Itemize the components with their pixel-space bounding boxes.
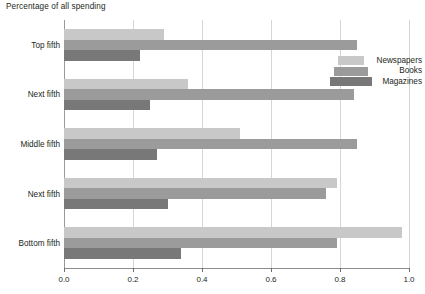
bar-books-bottom-fifth-4 — [64, 238, 337, 249]
x-tick-label-0.4: 0.4 — [196, 275, 207, 284]
bar-magazines-next-fifth-1 — [64, 100, 150, 111]
x-tick-label-1.0: 1.0 — [403, 275, 414, 284]
y-axis-label-1: Next fifth — [2, 90, 60, 99]
y-axis-label-2: Middle fifth — [2, 140, 60, 149]
x-tick-mark-0.2 — [133, 268, 134, 272]
y-axis-label-3: Next fifth — [2, 189, 60, 198]
legend-swatch-books — [334, 67, 368, 76]
bar-newspapers-next-fifth-3 — [64, 178, 337, 189]
bar-magazines-middle-fifth-2 — [64, 149, 157, 160]
bar-books-next-fifth-1 — [64, 89, 354, 100]
x-tick-mark-1.0 — [409, 268, 410, 272]
y-axis-label-0: Top fifth — [2, 40, 60, 49]
legend-label-books: Books — [399, 66, 422, 75]
legend-swatch-magazines — [330, 77, 372, 86]
bar-magazines-top-fifth-0 — [64, 50, 140, 61]
x-tick-mark-0.8 — [340, 268, 341, 272]
bar-books-next-fifth-3 — [64, 188, 326, 199]
x-tick-mark-0.4 — [202, 268, 203, 272]
chart-title: Percentage of all spending — [6, 2, 106, 11]
chart-legend: NewspapersBooksMagazines — [330, 56, 422, 88]
legend-label-magazines: Magazines — [382, 77, 422, 86]
x-axis-line — [64, 268, 410, 269]
x-tick-label-0.0: 0.0 — [58, 275, 69, 284]
bar-newspapers-bottom-fifth-4 — [64, 227, 402, 238]
bar-newspapers-next-fifth-1 — [64, 79, 188, 90]
x-tick-mark-0.0 — [64, 268, 65, 272]
x-tick-label-0.8: 0.8 — [334, 275, 345, 284]
bar-books-top-fifth-0 — [64, 40, 357, 51]
bar-magazines-bottom-fifth-4 — [64, 248, 181, 259]
bar-newspapers-top-fifth-0 — [64, 29, 164, 40]
spending-bar-chart: Percentage of all spending Top fifthNext… — [0, 0, 425, 294]
legend-swatch-newspapers — [338, 56, 364, 65]
bar-newspapers-middle-fifth-2 — [64, 128, 240, 139]
x-tick-mark-0.6 — [271, 268, 272, 272]
y-axis-label-4: Bottom fifth — [2, 239, 60, 248]
legend-label-newspapers: Newspapers — [376, 56, 422, 65]
x-tick-label-0.2: 0.2 — [127, 275, 138, 284]
x-tick-label-0.6: 0.6 — [265, 275, 276, 284]
bar-books-middle-fifth-2 — [64, 139, 357, 150]
bar-magazines-next-fifth-3 — [64, 199, 168, 210]
y-axis-category-labels: Top fifthNext fifthMiddle fifthNext fift… — [0, 20, 60, 268]
